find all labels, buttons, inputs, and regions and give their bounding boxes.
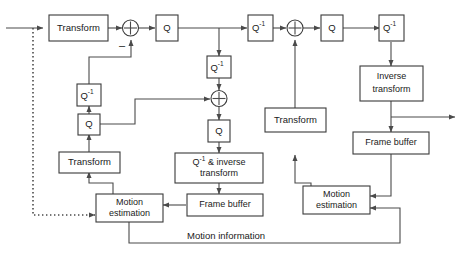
block-decoder-transform[interactable]: Transform bbox=[265, 108, 326, 132]
block-encoder-mid-q-label: Q bbox=[215, 125, 222, 136]
block-encoder-local-q-label: Q bbox=[85, 118, 92, 129]
block-decoder-inverse-transform[interactable]: Inverse transform bbox=[360, 66, 423, 101]
codec-block-diagram: Transform – Q Q-1 Q Transform bbox=[0, 0, 461, 256]
block-encoder-q[interactable]: Q bbox=[156, 15, 178, 41]
adder-decoder-reconstruct[interactable] bbox=[287, 20, 303, 36]
block-decoder-q-label: Q bbox=[328, 22, 335, 33]
block-decoder-q[interactable]: Q bbox=[321, 15, 343, 41]
label-motion-information: Motion information bbox=[187, 230, 265, 241]
block-encoder-local-q[interactable]: Q bbox=[78, 114, 100, 135]
adder-minus-sign: – bbox=[119, 39, 126, 51]
block-encoder-iq-inverse-transform-line2: transform bbox=[200, 168, 238, 178]
block-decoder-transform-label: Transform bbox=[274, 114, 317, 125]
block-decoder-iq-left[interactable]: Q-1 bbox=[248, 15, 273, 41]
block-encoder-mid-iq[interactable]: Q-1 bbox=[207, 56, 231, 78]
block-decoder-iq-right[interactable]: Q-1 bbox=[379, 15, 404, 41]
block-encoder-motion-estimation-line2: estimation bbox=[109, 208, 150, 218]
block-decoder-inverse-transform-line1: Inverse bbox=[377, 71, 407, 81]
block-encoder-motion-estimation-line1: Motion bbox=[116, 197, 143, 207]
block-encoder-transform-label: Transform bbox=[57, 22, 100, 33]
block-decoder-frame-buffer-label: Frame buffer bbox=[365, 137, 416, 147]
block-decoder-motion-estimation[interactable]: Motion estimation bbox=[303, 186, 370, 214]
block-encoder-transform[interactable]: Transform bbox=[49, 15, 108, 41]
block-encoder-frame-buffer[interactable]: Frame buffer bbox=[187, 194, 263, 216]
adder-encoder-difference[interactable]: – bbox=[119, 20, 139, 51]
block-encoder-mid-q[interactable]: Q bbox=[208, 120, 230, 142]
wire-decoder-frame-buffer-to-motion-estimation bbox=[370, 154, 391, 196]
block-encoder-frame-buffer-label: Frame buffer bbox=[199, 199, 250, 209]
block-encoder-q-label: Q bbox=[163, 22, 170, 33]
adder-encoder-reconstruct[interactable] bbox=[211, 91, 227, 107]
block-encoder-local-transform-label: Transform bbox=[68, 156, 111, 167]
wire-motion-estimation-to-local-transform bbox=[89, 172, 113, 194]
block-decoder-motion-estimation-line2: estimation bbox=[316, 200, 357, 210]
diagram-canvas: Transform – Q Q-1 Q Transform bbox=[0, 0, 461, 256]
block-encoder-motion-estimation[interactable]: Motion estimation bbox=[96, 194, 163, 222]
block-decoder-frame-buffer[interactable]: Frame buffer bbox=[353, 132, 429, 154]
wire-local-q-to-adder2 bbox=[89, 99, 210, 124]
block-encoder-local-transform[interactable]: Transform bbox=[59, 152, 120, 173]
block-encoder-iq-inverse-transform[interactable]: Q-1 & inverse transform bbox=[175, 153, 263, 183]
block-decoder-motion-estimation-line1: Motion bbox=[323, 189, 350, 199]
block-decoder-inverse-transform-line2: transform bbox=[372, 84, 410, 94]
block-encoder-local-iq[interactable]: Q-1 bbox=[77, 84, 101, 106]
